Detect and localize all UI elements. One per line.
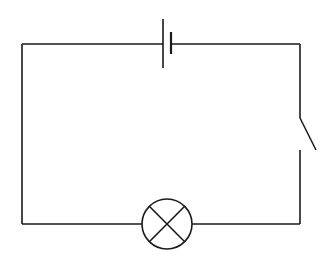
switch-arm [300, 118, 316, 150]
switch-icon [300, 118, 316, 150]
lamp-icon [142, 199, 192, 249]
battery-icon [163, 19, 171, 68]
wires [22, 44, 300, 224]
circuit-diagram [0, 0, 336, 264]
